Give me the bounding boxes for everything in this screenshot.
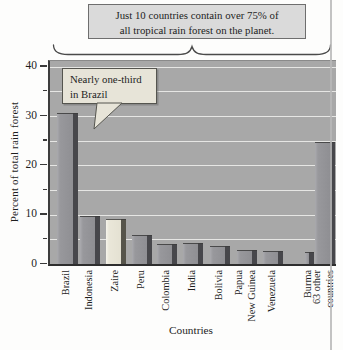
bar-colombia [157,244,177,264]
page-rule-line [330,0,332,350]
bar-brazil [57,113,78,264]
y-axis-title: Percent of total rain forest [8,82,20,242]
y-tick-major [40,65,47,67]
y-tick-minor [43,90,47,92]
gridline [50,141,336,142]
bar-bolivia [210,246,230,264]
y-tick-major [40,213,47,215]
brazil-callout-box: Nearly one-third in Brazil [62,68,157,104]
y-tick-minor [43,238,47,240]
y-tick-label: 40 [13,59,37,72]
y-tick-label: 0 [13,257,37,270]
bar-peru [132,235,152,264]
rainforest-bar-chart-figure: Just 10 countries contain over 75% of al… [0,0,343,350]
y-tick-minor [43,139,47,141]
y-tick-major [40,164,47,166]
bar-venezuela [263,251,283,264]
gridline [50,190,336,191]
gridline [50,165,336,166]
bar-zaire [106,219,126,264]
bar-india [183,243,203,264]
y-tick-major [40,115,47,117]
bar-papua-new-guinea [237,250,257,264]
x-axis-title: Countries [48,324,334,336]
curly-brace-icon [52,42,332,58]
y-tick-major [40,263,47,265]
bar-63-other-countries [315,142,335,264]
bar-burma [305,252,314,264]
callout-tail [88,102,130,132]
top-annotation-box: Just 10 countries contain over 75% of al… [88,4,306,39]
bar-indonesia [80,216,100,264]
y-tick-minor [43,189,47,191]
